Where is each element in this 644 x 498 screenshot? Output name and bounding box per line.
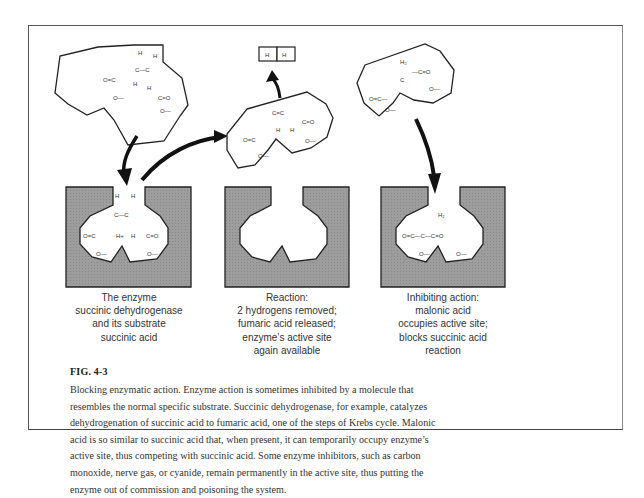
svg-text:O—: O— (305, 138, 316, 144)
panel-3-caption: Inhibiting action: malonic acid occupies… (378, 291, 508, 357)
caption-line: and its substrate (64, 317, 194, 330)
caption-line: succinic dehydrogenase (64, 304, 194, 317)
enzyme-1-succinic-dehydrogenase: H H C—C O=C H+ H C=O O— O— (66, 187, 191, 287)
enzyme-2-empty-active-site (225, 187, 349, 287)
caption-text-line: enzyme out of commission and poisoning t… (70, 482, 515, 498)
caption-text-line: acid is so similar to succinic acid that… (70, 432, 515, 449)
svg-text:H: H (133, 81, 137, 87)
caption-line: again available (222, 344, 352, 357)
svg-text:H: H (131, 233, 135, 239)
svg-text:C: C (400, 77, 405, 83)
caption-line: 2 hydrogens removed; (222, 304, 352, 317)
svg-text:C—C: C—C (114, 212, 129, 218)
caption-line: succinic acid (64, 331, 194, 344)
svg-text:O=C—C—C=O: O=C—C—C=O (402, 233, 444, 239)
fumaric-acid-molecule: C=C H H C=O O=C O— O— (227, 92, 333, 168)
svg-text:O=C: O=C (83, 233, 96, 239)
panel-2-caption: Reaction: 2 hydrogens removed; fumaric a… (222, 291, 352, 357)
figure-label: FIG. 4-3 (70, 366, 108, 377)
svg-text:C—C: C—C (135, 67, 150, 73)
panel-1-caption: The enzyme succinic dehydrogenase and it… (64, 291, 194, 344)
svg-text:O—: O— (385, 107, 396, 113)
svg-text:H: H (290, 127, 294, 133)
svg-text:H₂: H₂ (400, 59, 407, 65)
svg-text:C=O: C=O (146, 233, 159, 239)
svg-text:O—: O— (258, 153, 269, 159)
released-hydrogens: H H (259, 47, 295, 61)
svg-text:O—: O— (160, 108, 171, 114)
caption-line: occupies active site; (378, 317, 508, 330)
svg-text:H: H (282, 52, 286, 58)
svg-text:H₂: H₂ (438, 212, 445, 218)
caption-line: blocks succinic acid (378, 331, 508, 344)
svg-text:H: H (115, 193, 119, 199)
inhibitor-binding-arrow (416, 119, 441, 194)
svg-text:O—: O— (147, 251, 158, 257)
caption-line: Inhibiting action: (378, 291, 508, 304)
caption-line: reaction (378, 344, 508, 357)
svg-text:O—: O— (429, 86, 440, 92)
svg-text:O—: O— (113, 95, 124, 101)
svg-text:H: H (153, 53, 157, 59)
malonic-acid-molecule-free: H₂ —C=O C O=C— O— O— (357, 44, 454, 116)
svg-text:O—: O— (456, 251, 467, 257)
svg-text:O—: O— (96, 251, 107, 257)
svg-text:H: H (276, 127, 280, 133)
svg-text:H: H (138, 50, 142, 56)
svg-text:H: H (147, 85, 151, 91)
svg-text:H: H (265, 52, 269, 58)
svg-text:O—: O— (419, 251, 430, 257)
svg-text:O=C: O=C (243, 137, 256, 143)
caption-text-line: active site, thus competing with succini… (70, 448, 515, 465)
svg-text:C=O: C=O (302, 119, 315, 125)
svg-text:O=C—: O=C— (369, 96, 388, 102)
caption-line: Reaction: (222, 291, 352, 304)
caption-text-line: Blocking enzymatic action. Enzyme action… (70, 382, 515, 399)
caption-line: The enzyme (64, 291, 194, 304)
caption-line: malonic acid (378, 304, 508, 317)
caption-text-line: dehydrogenation of succinic acid to fuma… (70, 415, 515, 432)
caption-line: fumaric acid released; (222, 317, 352, 330)
svg-text:C=O: C=O (158, 95, 171, 101)
svg-text:H: H (131, 193, 135, 199)
hydrogen-release-arrow (266, 70, 280, 98)
svg-text:C=C: C=C (272, 110, 285, 116)
svg-text:H+: H+ (116, 233, 124, 239)
caption-line: enzyme’s active site (222, 331, 352, 344)
caption-text-line: resembles the normal specific substrate.… (70, 399, 515, 416)
figure-caption: Blocking enzymatic action. Enzyme action… (70, 382, 515, 498)
svg-text:O=C: O=C (103, 77, 116, 83)
succinic-acid-molecule-free: H H C—C O=C H H C=O O— O— (55, 45, 188, 145)
svg-text:—C=O: —C=O (412, 69, 431, 75)
enzyme-3-inhibited: H₂ O=C—C—C=O O— O— (381, 187, 505, 287)
caption-text-line: monoxide, nerve gas, or cyanide, remain … (70, 465, 515, 482)
